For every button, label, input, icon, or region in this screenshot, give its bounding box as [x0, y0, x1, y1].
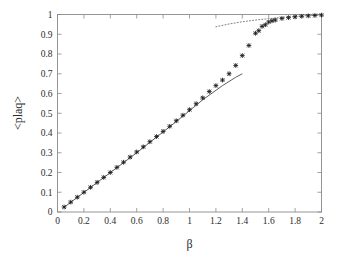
data-point-marker — [128, 155, 133, 160]
y-tick-label: 0.2 — [41, 168, 53, 178]
y-axis-title: <plaq> — [11, 96, 25, 130]
y-tick-label: 1 — [48, 10, 53, 20]
data-point-marker — [121, 160, 126, 165]
data-point-marker — [270, 18, 275, 23]
plot-svg: 00.20.40.60.811.21.41.61.82 00.10.20.30.… — [0, 0, 338, 254]
y-tick-label: 0 — [48, 207, 53, 217]
x-tick-label: 1 — [187, 216, 192, 226]
data-point-marker — [75, 195, 80, 200]
data-point-marker — [227, 71, 232, 76]
data-point-marker — [313, 13, 318, 18]
x-tick-label: 1.4 — [236, 216, 248, 226]
data-point-marker — [62, 205, 67, 210]
data-point-marker — [280, 16, 285, 21]
data-point-marker — [293, 15, 298, 20]
x-tick-label: 0 — [55, 216, 60, 226]
data-point-marker — [233, 63, 238, 68]
data-point-marker — [220, 78, 225, 83]
data-point-marker — [95, 180, 100, 185]
x-tick-label: 0.2 — [78, 216, 90, 226]
data-point-marker — [273, 18, 278, 23]
data-point-marker — [148, 139, 153, 144]
x-tick-label: 1.8 — [289, 216, 301, 226]
data-point-marker — [299, 14, 304, 19]
data-point-marker — [214, 83, 219, 88]
data-point-marker — [306, 14, 311, 19]
y-tick-label: 0.4 — [41, 128, 53, 138]
x-tick-label: 1.2 — [210, 216, 222, 226]
data-point-marker — [286, 15, 291, 20]
data-point-marker — [88, 185, 93, 190]
x-tick-label: 0.6 — [131, 216, 143, 226]
data-point-marker — [115, 165, 120, 170]
x-tick-label: 0.8 — [157, 216, 169, 226]
data-point-marker — [187, 107, 192, 112]
data-point-marker — [134, 150, 139, 155]
y-tick-label: 0.6 — [41, 89, 53, 99]
figure-canvas: 00.20.40.60.811.21.41.61.82 00.10.20.30.… — [0, 0, 338, 254]
x-tick-label: 0.4 — [104, 216, 116, 226]
data-point-marker — [207, 89, 212, 94]
y-tick-label: 0.8 — [41, 49, 53, 59]
y-tick-label: 0.3 — [41, 148, 53, 158]
x-tick-label: 1.6 — [263, 216, 275, 226]
data-point-marker — [154, 134, 159, 139]
data-point-marker — [141, 144, 146, 149]
data-point-marker — [101, 175, 106, 180]
x-tick-label: 2 — [319, 216, 324, 226]
data-point-marker — [181, 113, 186, 118]
data-point-marker — [161, 129, 166, 134]
data-point-marker — [194, 101, 199, 106]
data-point-marker — [167, 124, 172, 129]
y-tick-label: 0.7 — [41, 69, 53, 79]
data-point-marker — [247, 43, 252, 48]
data-point-marker — [240, 53, 245, 58]
x-axis-title: β — [186, 237, 192, 251]
y-tick-label: 0.1 — [41, 188, 53, 198]
data-point-marker — [174, 118, 179, 123]
data-point-marker — [82, 190, 87, 195]
data-point-marker — [256, 28, 261, 33]
data-point-marker — [253, 31, 258, 36]
y-tick-label: 0.9 — [41, 30, 53, 40]
data-point-marker — [108, 170, 113, 175]
data-point-marker — [319, 13, 324, 18]
data-point-marker — [68, 200, 73, 205]
data-point-marker — [200, 95, 205, 100]
y-tick-label: 0.5 — [41, 109, 53, 119]
